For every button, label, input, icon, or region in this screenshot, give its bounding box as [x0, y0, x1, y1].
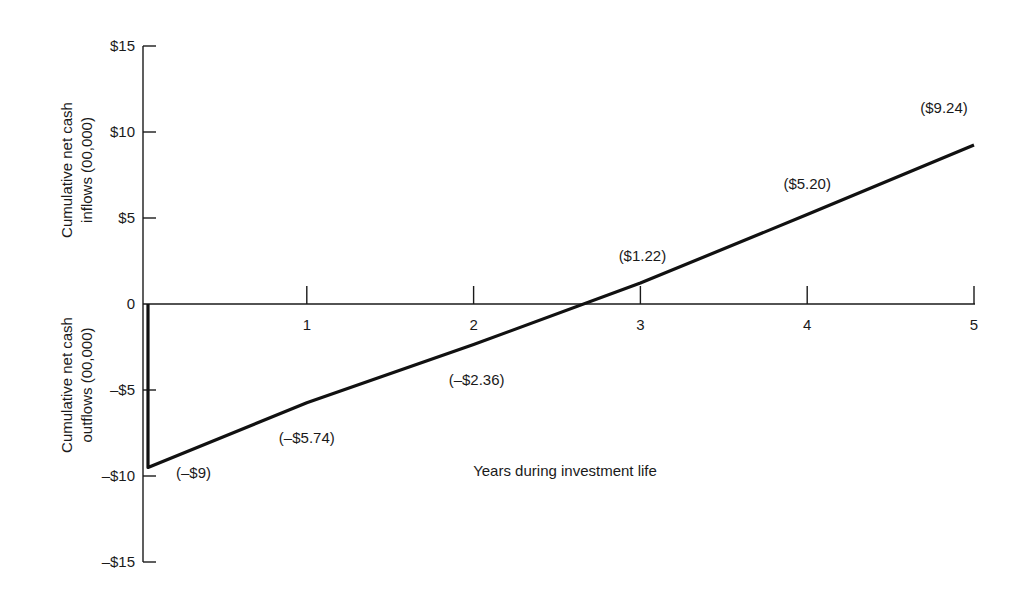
- data-point-label: ($1.22): [619, 247, 667, 264]
- x-tick-label: 4: [803, 316, 811, 333]
- y-tick-label: $10: [110, 123, 135, 140]
- cumulative-cash-flow-chart: $15$10$50–$5–$10–$15 12345 Cumulative ne…: [0, 0, 1031, 606]
- x-tick-label: 5: [970, 316, 978, 333]
- x-tick-label: 1: [303, 316, 311, 333]
- y-tick-label: $5: [118, 209, 135, 226]
- x-tick-label: 2: [469, 316, 477, 333]
- y-tick-label: –$15: [102, 553, 135, 570]
- data-point-label: (–$9): [176, 464, 211, 481]
- y-axis-title-outflows: Cumulative net cashoutflows (00,000): [58, 317, 95, 453]
- data-point-label: (–$2.36): [449, 371, 505, 388]
- y-tick-label: –$5: [110, 381, 135, 398]
- data-point-label: ($5.20): [783, 175, 831, 192]
- y-axis-title-inflows: Cumulative net cashinflows (00,000): [58, 102, 95, 238]
- svg-text:inflows (00,000): inflows (00,000): [78, 117, 95, 223]
- cumulative-cash-flow-line: [148, 145, 974, 467]
- y-tick-label: –$10: [102, 467, 135, 484]
- data-point-label: ($9.24): [920, 99, 968, 116]
- svg-text:Cumulative net cash: Cumulative net cash: [58, 317, 75, 453]
- y-axis-titles: Cumulative net cashinflows (00,000)Cumul…: [58, 102, 95, 453]
- svg-text:outflows (00,000): outflows (00,000): [78, 327, 95, 442]
- y-tick-label: 0: [127, 295, 135, 312]
- x-axis-title: Years during investment life: [473, 462, 657, 479]
- x-axis: 12345: [143, 286, 978, 333]
- data-point-labels: (–$9)(–$5.74)(–$2.36)($1.22)($5.20)($9.2…: [176, 99, 968, 481]
- svg-text:Cumulative net cash: Cumulative net cash: [58, 102, 75, 238]
- y-tick-label: $15: [110, 37, 135, 54]
- x-tick-label: 3: [636, 316, 644, 333]
- data-point-label: (–$5.74): [279, 429, 335, 446]
